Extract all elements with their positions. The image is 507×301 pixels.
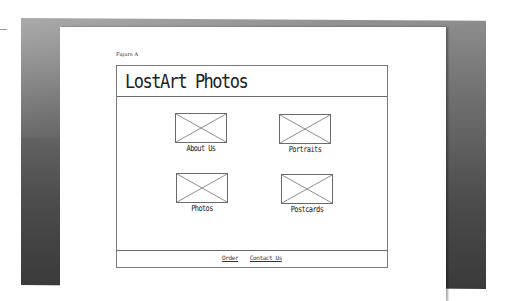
tile-photos[interactable]: Photos (167, 173, 237, 213)
tile-about-us[interactable]: About Us (166, 113, 236, 153)
wireframe-header: LostArt Photos (117, 66, 387, 97)
figure-caption: Figure A (116, 51, 138, 57)
footer-link-order[interactable]: Order (222, 254, 238, 261)
tile-label: Photos (167, 204, 237, 214)
margin-tick (0, 29, 7, 30)
image-placeholder-icon (176, 173, 228, 203)
tile-postcards[interactable]: Postcards (272, 174, 342, 214)
footer-link-contact-us[interactable]: Contact Us (250, 254, 282, 261)
tile-label: Postcards (272, 205, 342, 215)
wireframe-page: LostArt Photos About Us Portraits Photos… (116, 65, 388, 268)
image-placeholder-icon (175, 113, 227, 143)
tile-label: About Us (166, 144, 236, 154)
site-title: LostArt Photos (125, 70, 247, 93)
wireframe-footer: Order Contact Us (117, 250, 387, 267)
image-placeholder-icon (281, 174, 333, 204)
tile-portraits[interactable]: Portraits (270, 114, 340, 154)
footer-links: Order Contact Us (117, 254, 387, 261)
tile-label: Portraits (270, 145, 340, 155)
image-placeholder-icon (279, 114, 331, 144)
